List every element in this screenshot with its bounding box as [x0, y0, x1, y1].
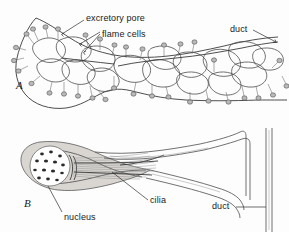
leader-excretory-pore	[62, 20, 84, 34]
flame-cell	[282, 76, 289, 88]
flame-cell	[29, 76, 40, 86]
leader-duct-top	[253, 30, 276, 42]
flame-cell	[111, 76, 116, 90]
panel-a-tubule-network	[33, 37, 284, 95]
flame-cell	[112, 43, 117, 56]
label-flame-cells: flame cells	[102, 30, 146, 39]
flame-cell	[206, 90, 211, 103]
label-nucleus: nucleus	[64, 213, 96, 222]
flame-cell	[75, 84, 80, 98]
flame-cell	[47, 82, 52, 95]
figure-container: excretory pore flame cells duct A nucleu…	[0, 0, 289, 232]
flame-cell	[166, 86, 171, 99]
flame-cell	[55, 27, 60, 40]
flame-cell	[16, 66, 28, 73]
panel-letter-a: A	[16, 80, 23, 91]
panel-b-flame-cell-detail	[21, 141, 164, 190]
flame-cell	[24, 32, 34, 44]
label-duct-top: duct	[230, 25, 247, 34]
flame-cell	[256, 86, 261, 100]
flame-cell	[211, 58, 216, 72]
flame-cell	[226, 92, 231, 104]
panel-a-flame-cells	[11, 25, 289, 104]
flame-cell	[149, 84, 154, 98]
leader-excretory-pore-arrow	[62, 33, 65, 37]
label-excretory-pore: excretory pore	[86, 14, 145, 23]
label-duct-bottom: duct	[212, 202, 229, 211]
flame-cell	[43, 25, 48, 38]
flame-cell	[131, 82, 136, 96]
leader-flame-cells-2-arrow	[84, 51, 87, 55]
flame-cell	[11, 58, 24, 63]
flame-cell	[161, 43, 166, 56]
label-cilia: cilia	[150, 196, 166, 205]
flame-cell	[61, 82, 66, 96]
flame-cell	[242, 86, 247, 100]
flame-cell	[268, 84, 276, 97]
panel-letter-b: B	[24, 198, 31, 209]
flame-cell	[30, 27, 38, 40]
